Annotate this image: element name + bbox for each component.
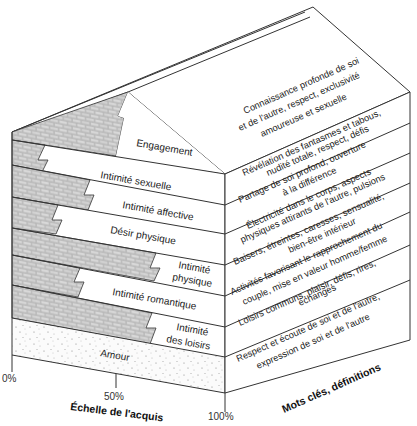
tick-label-0: 0% [2,373,17,384]
axis-title-acquis: Échelle de l'acquis [70,400,164,423]
intimacy-house-diagram: Engagement Intimité sexuelle Intimité af… [0,0,417,426]
tick-label-50: 50% [104,391,124,402]
tick-label-100: 100% [208,411,234,422]
